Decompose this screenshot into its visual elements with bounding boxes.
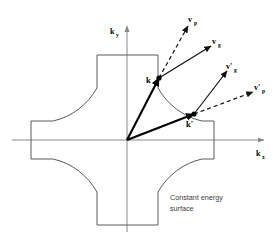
velocity-vectors-at-k	[159, 26, 211, 78]
diagram-canvas: k y k x k k' v p v g v' g v' p Constant …	[0, 0, 280, 239]
axes-group	[12, 26, 264, 232]
label-k: k	[146, 75, 151, 85]
label-vg-prime: v'	[226, 62, 232, 71]
constant-energy-surface-figure: k y k x k k' v p v g v' g v' p Constant …	[0, 0, 280, 239]
vector-labels-group: v p v g v' g v' p	[188, 15, 265, 94]
velocity-vectors-at-k-prime	[194, 71, 253, 114]
caption-line-1: Constant energy	[170, 193, 223, 202]
y-axis-label-subscript: y	[116, 32, 119, 38]
vp-arrow	[159, 26, 188, 78]
label-vg-prime-subscript: g	[234, 67, 237, 73]
caption-line-2: surface	[170, 204, 194, 213]
label-vg-subscript: g	[218, 42, 221, 48]
vg-arrow	[159, 46, 211, 78]
caption-group: Constant energy surface	[170, 193, 223, 213]
label-vg: v	[212, 37, 216, 46]
y-axis-label: k	[110, 27, 115, 36]
x-axis-label: k	[256, 149, 261, 158]
label-k-prime: k'	[186, 119, 193, 129]
label-vp: v	[188, 15, 192, 24]
label-vp-prime-subscript: p	[262, 88, 265, 94]
contact-points-group	[156, 75, 196, 116]
k-vector-arrow	[127, 78, 159, 140]
point-labels-group: k k'	[146, 75, 193, 129]
k-prime-vector-arrow	[127, 114, 194, 140]
wavevectors-group	[127, 78, 194, 140]
label-vp-subscript: p	[194, 20, 197, 26]
point-k-dot	[156, 75, 161, 80]
x-axis-label-subscript: x	[262, 154, 265, 160]
label-vp-prime: v'	[254, 83, 260, 92]
point-k-prime-dot	[191, 111, 196, 116]
